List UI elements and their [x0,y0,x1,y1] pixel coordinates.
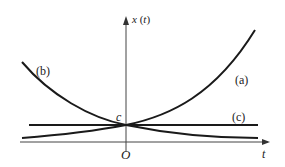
y-axis-var: x [132,13,137,25]
curve-a [22,30,255,138]
curve-a-label: (a) [235,74,248,86]
x-axis-arrow-icon [262,139,270,145]
intercept-label: c [116,111,121,123]
y-axis-arrow-icon [123,16,129,25]
y-axis-label: x (t) [132,14,150,25]
origin-label: O [121,148,130,161]
y-axis-paren-close: ) [146,13,150,25]
x-axis-label: t [262,148,265,160]
curve-c-label: (c) [232,111,245,123]
curve-b-label: (b) [36,65,50,77]
